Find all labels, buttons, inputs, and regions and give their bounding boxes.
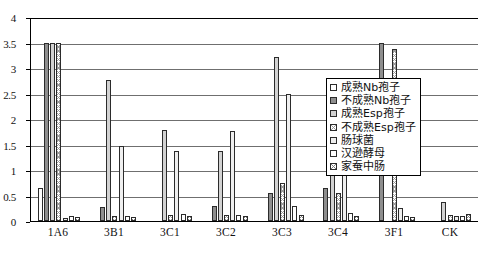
legend-item[interactable]: 汉逊酵母 (330, 147, 416, 160)
bar (454, 216, 459, 221)
legend-swatch-icon (330, 97, 337, 104)
y-tick-label: 0.5 (0, 191, 16, 202)
bar (131, 217, 136, 221)
legend-item[interactable]: 成熟Nb孢子 (330, 81, 416, 94)
bar (286, 94, 291, 222)
y-tick-mark (26, 18, 30, 19)
bar (299, 215, 304, 221)
legend-item[interactable]: 不成熟Esp孢子 (330, 121, 416, 134)
bar (336, 193, 341, 221)
x-axis-labels: 1A63B13C13C23C33C43F1CK (30, 226, 478, 238)
y-tick-label: 1.5 (0, 140, 16, 151)
bar-group (31, 18, 87, 221)
bar (212, 206, 217, 221)
legend-swatch-icon (330, 163, 337, 170)
bar (168, 215, 173, 221)
bar (106, 80, 111, 221)
bar (236, 215, 241, 221)
bar (268, 193, 273, 221)
legend-item[interactable]: 肠球菌 (330, 134, 416, 147)
bar (218, 151, 223, 221)
y-tick-label: 2 (0, 115, 16, 126)
bar (410, 217, 415, 221)
legend-swatch-icon (330, 84, 337, 91)
legend-label: 不成熟Nb孢子 (341, 95, 411, 106)
y-tick-mark (26, 120, 30, 121)
bar (274, 57, 279, 221)
legend-label: 肠球菌 (341, 135, 374, 146)
y-tick-label: 3.5 (0, 38, 16, 49)
bar (404, 216, 409, 221)
bar (441, 202, 446, 221)
bar-group (255, 18, 311, 221)
bar (162, 130, 167, 221)
bar-chart: 00.511.522.533.54 1A63B13C13C23C33C43F1C… (0, 0, 490, 280)
bar (63, 218, 68, 221)
bar (224, 215, 229, 221)
x-tick-label: 3C1 (142, 226, 198, 238)
bar (243, 216, 248, 221)
y-tick-mark (26, 44, 30, 45)
y-tick-mark (26, 197, 30, 198)
y-tick-mark (26, 95, 30, 96)
legend-label: 不成熟Esp孢子 (341, 122, 416, 133)
legend-label: 成熟Nb孢子 (341, 82, 400, 93)
x-tick-label: 3C2 (198, 226, 254, 238)
bar (230, 131, 235, 221)
x-tick-label: 3C4 (310, 226, 366, 238)
bar (448, 215, 453, 221)
bar (460, 216, 465, 221)
bar (348, 213, 353, 221)
y-tick-mark (26, 171, 30, 172)
bar (44, 43, 49, 222)
bar (119, 146, 124, 221)
bar (69, 216, 74, 221)
legend-label: 家蚕中肠 (341, 161, 385, 172)
y-tick-mark (26, 69, 30, 70)
legend-swatch-icon (330, 124, 337, 131)
bar (466, 214, 471, 221)
y-tick-label: 3 (0, 64, 16, 75)
bar-group (87, 18, 143, 221)
bar (354, 216, 359, 221)
bar (56, 43, 61, 222)
bar (323, 188, 328, 221)
legend-swatch-icon (330, 150, 337, 157)
bar-group (199, 18, 255, 221)
legend-label: 成熟Esp孢子 (341, 108, 405, 119)
chart-legend: 成熟Nb孢子不成熟Nb孢子成熟Esp孢子不成熟Esp孢子肠球菌汉逊酵母家蚕中肠 (326, 78, 421, 176)
legend-item[interactable]: 不成熟Nb孢子 (330, 94, 416, 107)
legend-swatch-icon (330, 110, 337, 117)
bar (181, 214, 186, 221)
bar (125, 216, 130, 221)
y-tick-label: 1 (0, 166, 16, 177)
bar (187, 216, 192, 221)
y-tick-label: 4 (0, 13, 16, 24)
bar (292, 206, 297, 221)
legend-label: 汉逊酵母 (341, 148, 385, 159)
bar (174, 151, 179, 221)
x-tick-label: 1A6 (30, 226, 86, 238)
y-tick-label: 2.5 (0, 89, 16, 100)
x-tick-label: 3B1 (86, 226, 142, 238)
bar (38, 188, 43, 221)
legend-swatch-icon (330, 137, 337, 144)
bar-group (422, 18, 478, 221)
y-tick-label: 0 (0, 217, 16, 228)
bar (398, 208, 403, 221)
legend-item[interactable]: 家蚕中肠 (330, 160, 416, 173)
bar (112, 216, 117, 221)
legend-item[interactable]: 成熟Esp孢子 (330, 107, 416, 120)
bar (280, 183, 285, 221)
x-tick-label: 3F1 (366, 226, 422, 238)
x-tick-label: CK (422, 226, 478, 238)
y-tick-mark (26, 222, 30, 223)
bar (50, 43, 55, 222)
bar (75, 217, 80, 221)
bar (100, 207, 105, 221)
bar-group (143, 18, 199, 221)
x-tick-label: 3C3 (254, 226, 310, 238)
y-tick-mark (26, 146, 30, 147)
